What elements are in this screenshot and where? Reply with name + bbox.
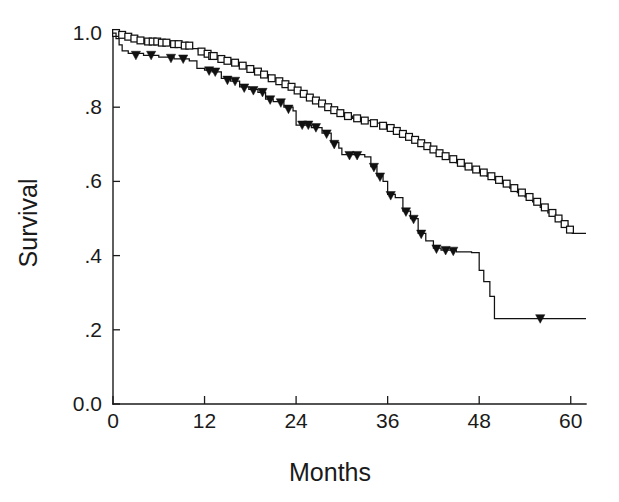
y-axis-title: Survival bbox=[14, 179, 42, 268]
censor-marker-triangle bbox=[131, 51, 140, 60]
censor-marker-square bbox=[247, 66, 254, 73]
censor-marker-triangle bbox=[240, 84, 249, 93]
x-axis-tick-group bbox=[113, 396, 571, 404]
censor-marker-square bbox=[210, 53, 217, 60]
censor-marker-square bbox=[465, 163, 472, 170]
y-tick-label: .4 bbox=[84, 244, 102, 267]
y-tick-label: .6 bbox=[84, 169, 102, 192]
survival-chart-figure: 0.0.2.4.6.81.0 01224364860 Survival Mont… bbox=[0, 0, 619, 502]
x-tick-label: 36 bbox=[376, 409, 399, 432]
censor-marker-square bbox=[186, 42, 193, 49]
censor-marker-square bbox=[519, 189, 526, 196]
x-tick-label: 60 bbox=[559, 409, 582, 432]
censor-marker-square bbox=[345, 113, 352, 120]
x-tick-label: 12 bbox=[193, 409, 216, 432]
km-step-line bbox=[113, 33, 586, 233]
censor-marker-square bbox=[567, 226, 574, 233]
censor-marker-square bbox=[534, 198, 541, 205]
y-axis-tick-group bbox=[113, 33, 120, 404]
censor-marker-square bbox=[457, 159, 464, 166]
censor-marker-square bbox=[224, 57, 231, 64]
x-axis-title: Months bbox=[289, 458, 371, 486]
censor-marker-square bbox=[503, 180, 510, 187]
chart-canvas: 0.0.2.4.6.81.0 01224364860 Survival Mont… bbox=[0, 0, 619, 502]
y-axis-tick-labels: 0.0.2.4.6.81.0 bbox=[73, 21, 103, 415]
censor-marker-square bbox=[361, 117, 368, 124]
censor-marker-triangle bbox=[432, 245, 441, 254]
censor-marker-triangle bbox=[322, 130, 331, 139]
censor-marker-square bbox=[541, 204, 548, 211]
censor-marker-square bbox=[268, 75, 275, 82]
censor-marker-triangle bbox=[409, 215, 418, 224]
x-axis-tick-labels: 01224364860 bbox=[107, 409, 582, 432]
series-lower-curve bbox=[113, 33, 586, 323]
censor-marker-triangle bbox=[353, 151, 362, 160]
censor-marker-square bbox=[511, 185, 518, 192]
y-tick-label: .2 bbox=[84, 318, 102, 341]
censor-marker-square bbox=[480, 169, 487, 176]
y-tick-label: 0.0 bbox=[73, 392, 102, 415]
censor-marker-square bbox=[496, 177, 503, 184]
censor-marker-square bbox=[450, 156, 457, 163]
km-step-line bbox=[113, 33, 586, 319]
censor-marker-triangle bbox=[417, 230, 426, 239]
censor-marker-square bbox=[442, 153, 449, 160]
censor-marker-square bbox=[526, 194, 533, 201]
series-layer bbox=[113, 30, 586, 324]
censor-marker-triangle bbox=[249, 87, 258, 96]
y-tick-label: 1.0 bbox=[73, 21, 102, 44]
censor-marker-square bbox=[137, 37, 144, 44]
censor-marker-square bbox=[473, 166, 480, 173]
x-tick-label: 0 bbox=[107, 409, 119, 432]
y-tick-label: .8 bbox=[84, 95, 102, 118]
x-tick-label: 24 bbox=[284, 409, 308, 432]
censor-marker-square bbox=[371, 120, 378, 127]
censor-marker-triangle bbox=[386, 192, 395, 201]
censor-marker-square bbox=[488, 173, 495, 180]
censor-marker-square bbox=[354, 115, 361, 122]
censor-marker-square bbox=[261, 71, 268, 78]
censor-marker-triangle bbox=[330, 140, 339, 149]
censor-marker-square bbox=[239, 62, 246, 69]
censor-marker-square bbox=[163, 39, 170, 46]
censor-marker-triangle bbox=[345, 151, 354, 160]
x-tick-label: 48 bbox=[468, 409, 491, 432]
censor-marker-square bbox=[232, 59, 239, 66]
censor-marker-square bbox=[337, 110, 344, 117]
censor-marker-triangle bbox=[284, 105, 293, 114]
censor-marker-square bbox=[380, 122, 387, 129]
